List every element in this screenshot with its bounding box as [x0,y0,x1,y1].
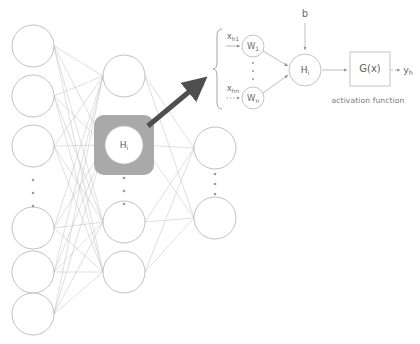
input-node [12,207,54,249]
weight-ellipsis [252,62,254,80]
input-brace [213,29,222,109]
activation-function-box [350,52,390,86]
hidden-node [103,251,145,293]
input-layer-ellipsis [32,179,35,208]
input-node [12,25,54,67]
edges-weights-to-summation [263,51,288,93]
detail-input-arrows [226,46,240,98]
edges-input-to-hidden [54,46,105,314]
output-node [194,127,236,169]
hidden-node [103,55,145,97]
summation-node [289,54,321,86]
input-node [12,125,54,167]
output-layer-ellipsis [214,173,217,196]
output-node [194,197,236,239]
weight-node [242,35,264,57]
diagram-canvas [0,0,420,344]
edges-hidden-to-output [143,76,194,272]
input-node [12,293,54,335]
neural-network-diagram: Hi xh1 xhn W1 Wn b Hi G(x) activation fu… [0,0,420,344]
highlighted-hidden-node [105,126,143,164]
hidden-node [103,201,145,243]
input-node [12,251,54,293]
input-node [12,75,54,117]
weight-node [242,87,264,109]
